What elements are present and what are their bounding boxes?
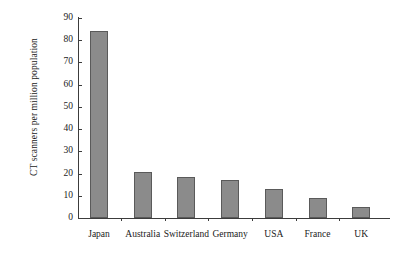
y-axis-tick: 20 [78, 174, 82, 175]
y-axis-tick: 10 [78, 196, 82, 197]
y-axis-tick-mark [78, 107, 82, 108]
y-axis-tick-label: 60 [64, 78, 74, 91]
y-axis-title: CT scanners per million population [27, 0, 41, 222]
bar-usa [265, 189, 283, 218]
y-axis-tick: 0 [78, 218, 82, 219]
y-axis-tick: 90 [78, 18, 82, 19]
bar-japan [90, 31, 108, 218]
x-axis-label-uk: UK [354, 228, 368, 241]
bar-france [309, 198, 327, 218]
y-axis-line [78, 17, 79, 218]
bar-uk [352, 207, 370, 218]
x-axis-label-usa: USA [264, 228, 283, 241]
bar-switzerland [177, 177, 195, 218]
x-axis-tick-mark [252, 218, 253, 221]
y-axis-tick-label: 50 [64, 100, 74, 113]
y-axis-tick-mark [78, 62, 82, 63]
y-axis-tick-label: 10 [64, 189, 74, 202]
x-axis-tick-mark [208, 218, 209, 221]
y-axis-tick: 50 [78, 107, 82, 108]
y-axis-tick: 70 [78, 62, 82, 63]
y-axis-tick-mark [78, 40, 82, 41]
x-axis-line [78, 218, 390, 219]
bar-germany [221, 180, 239, 218]
y-axis-tick-label: 30 [64, 144, 74, 157]
y-axis-tick-label: 70 [64, 55, 74, 68]
x-axis-tick-mark [339, 218, 340, 221]
y-axis-tick: 80 [78, 40, 82, 41]
y-axis-tick: 40 [78, 129, 82, 130]
x-axis-tick-mark [296, 218, 297, 221]
y-axis-tick: 60 [78, 85, 82, 86]
y-axis-tick: 30 [78, 151, 82, 152]
y-axis-tick-label: 0 [68, 211, 73, 224]
y-axis-tick-mark [78, 174, 82, 175]
bar-australia [134, 172, 152, 218]
x-axis-label-switzerland: Switzerland [164, 228, 209, 241]
x-axis-tick-mark [121, 218, 122, 221]
y-axis-tick-label: 90 [64, 11, 74, 24]
ct-scanners-bar-chart: CT scanners per million population 01020… [0, 0, 399, 253]
y-axis-tick-mark [78, 196, 82, 197]
y-axis-tick-label: 80 [64, 33, 74, 46]
x-axis-label-australia: Australia [125, 228, 160, 241]
y-axis-tick-label: 20 [64, 167, 74, 180]
x-axis-label-germany: Germany [212, 228, 247, 241]
x-axis-label-japan: Japan [88, 228, 110, 241]
y-axis-tick-mark [78, 18, 82, 19]
x-axis-label-france: France [305, 228, 331, 241]
x-axis-tick-mark [165, 218, 166, 221]
y-axis-tick-mark [78, 85, 82, 86]
plot-area: 0102030405060708090 JapanAustraliaSwitze… [78, 18, 390, 218]
y-axis-tick-mark [78, 151, 82, 152]
y-axis-tick-mark [78, 218, 82, 219]
y-axis-tick-label: 40 [64, 122, 74, 135]
y-axis-tick-mark [78, 129, 82, 130]
